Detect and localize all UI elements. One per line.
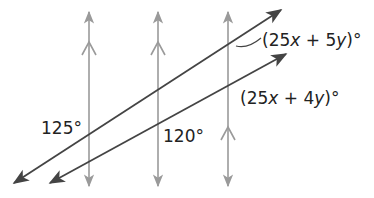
angle-label-125: 125° — [41, 118, 82, 138]
angle-label-120: 120° — [163, 126, 204, 146]
angle-label-25x-plus-4y: (25x + 4y)° — [240, 88, 339, 108]
transversal-lower — [50, 54, 286, 183]
angle-pointer-curve — [236, 38, 261, 47]
vertical-line-2 — [151, 12, 165, 186]
angle-label-25x-plus-5y: (25x + 5y)° — [262, 30, 361, 50]
vertical-line-3 — [221, 12, 235, 186]
geometry-diagram: 125° 120° (25x + 5y)° (25x + 4y)° — [0, 0, 374, 198]
